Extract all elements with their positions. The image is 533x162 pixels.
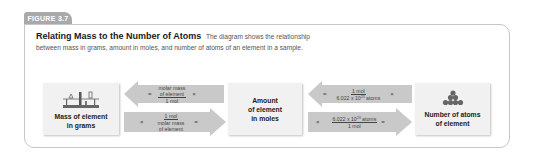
mass-box-line-1: Mass of element bbox=[55, 112, 108, 121]
times-sign: × bbox=[390, 91, 394, 97]
atoms-box-line-1: Number of atoms bbox=[425, 110, 481, 119]
denominator-unit: atoms bbox=[365, 95, 381, 101]
denominator-line-2: of element bbox=[159, 126, 183, 132]
figure-caption: Relating Mass to the Number of Atoms The… bbox=[36, 31, 506, 53]
amount-in-moles-box: Amount of element in moles bbox=[228, 83, 302, 135]
number-of-atoms-box: Number of atoms of element bbox=[415, 83, 490, 135]
avogadro-inverse-fraction: 1 mol 6.022 x 1023 atoms bbox=[337, 88, 381, 101]
caption-line-1: The diagram shows the relationship bbox=[206, 33, 310, 40]
moles-box-line-1: Amount bbox=[252, 96, 278, 105]
moles-box-line-3: in moles bbox=[251, 114, 279, 123]
caption-line-2: between mass in grams, amount in moles, … bbox=[36, 44, 303, 51]
mass-box-line-2: in grams bbox=[67, 121, 95, 130]
numerator-unit: atoms bbox=[361, 116, 377, 122]
numerator: 1 mol bbox=[351, 88, 366, 95]
conversion-atoms-to-moles: = 1 mol 6.022 x 1023 atoms × bbox=[323, 83, 394, 105]
denominator: 1 mol bbox=[348, 123, 361, 129]
equals-sign: = bbox=[323, 91, 327, 97]
atoms-box-line-2: of element bbox=[436, 119, 470, 128]
denominator-exponent: 23 bbox=[361, 95, 365, 99]
times-sign: × bbox=[192, 91, 196, 97]
numerator-exponent: 23 bbox=[357, 116, 361, 120]
equals-sign: = bbox=[148, 91, 152, 97]
mass-in-grams-box: Mass of element in grams bbox=[43, 83, 119, 135]
equals-sign: = bbox=[194, 119, 198, 125]
inverse-molar-mass-fraction: 1 mol molar massof element bbox=[158, 113, 185, 132]
molar-mass-fraction: molar massof element 1 mol bbox=[158, 85, 187, 104]
conversion-moles-to-mass: = molar massof element 1 mol × bbox=[148, 83, 196, 105]
numerator: 1 mol bbox=[164, 113, 179, 120]
avogadro-fraction: 6.022 x 1023 atoms 1 mol bbox=[332, 116, 378, 129]
figure-title: Relating Mass to the Number of Atoms bbox=[36, 31, 201, 41]
conversion-moles-to-atoms: × 6.022 x 1023 atoms 1 mol = bbox=[316, 111, 385, 133]
atom-pile-icon bbox=[442, 90, 464, 106]
numerator-base: 6.022 x 10 bbox=[333, 116, 357, 122]
figure-label: FIGURE 3.7 bbox=[27, 15, 68, 22]
numerator-line-2: of element bbox=[160, 91, 184, 97]
balance-scale-icon bbox=[61, 89, 101, 109]
denominator: 1 mol bbox=[166, 98, 179, 104]
times-sign: × bbox=[316, 119, 320, 125]
equals-sign: = bbox=[381, 119, 385, 125]
moles-box-line-2: of element bbox=[248, 105, 282, 114]
denominator-base: 6.022 x 10 bbox=[337, 95, 361, 101]
times-sign: × bbox=[140, 119, 144, 125]
conversion-mass-to-moles: × 1 mol molar massof element = bbox=[140, 111, 198, 133]
